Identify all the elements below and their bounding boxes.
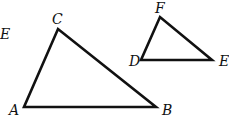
vertex-label-b: B bbox=[161, 102, 172, 118]
vertex-label-c: C bbox=[52, 11, 63, 27]
triangles-diagram: E A B C D E F bbox=[0, 0, 229, 119]
vertex-label-e: E bbox=[218, 53, 229, 69]
vertex-label-d: D bbox=[128, 53, 140, 69]
triangle-def bbox=[141, 17, 212, 60]
stray-label-e: E bbox=[0, 26, 10, 42]
vertex-label-f: F bbox=[154, 0, 166, 16]
vertex-label-a: A bbox=[7, 102, 19, 118]
